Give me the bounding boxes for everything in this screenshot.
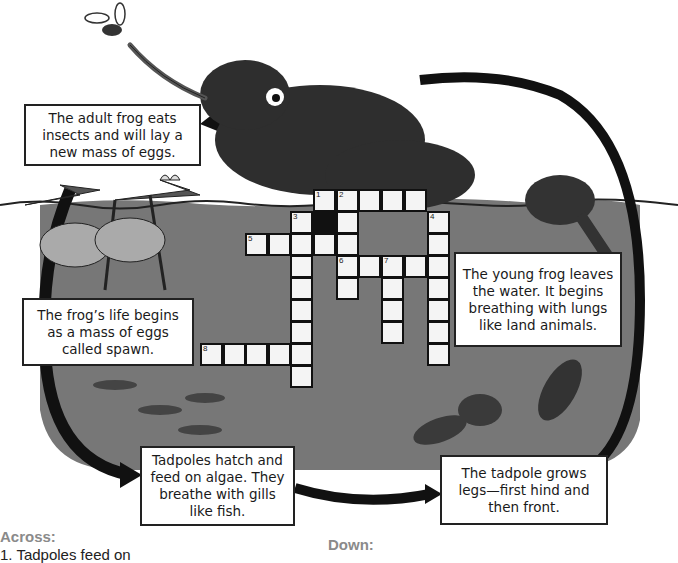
crossword-cell[interactable]: [358, 255, 381, 278]
across-clue-1: 1. Tadpoles feed on: [0, 546, 131, 563]
crossword-cell[interactable]: [404, 255, 427, 278]
crossword-cell[interactable]: [427, 277, 450, 300]
crossword-cell[interactable]: [290, 299, 313, 322]
caption-adult-frog: The adult frog eats insects and will lay…: [24, 104, 201, 166]
crossword-cell[interactable]: [336, 277, 359, 300]
caption-tadpoles: Tadpoles hatch and feed on algae. They b…: [140, 446, 295, 526]
cycle-arrow-bottom: [295, 488, 430, 500]
fly: [102, 24, 122, 36]
crossword-cell[interactable]: [290, 343, 313, 366]
tadpole: [93, 380, 137, 390]
crossword-cell[interactable]: [268, 343, 291, 366]
crossword-cell[interactable]: [427, 299, 450, 322]
crossword-cell[interactable]: [290, 255, 313, 278]
crossword-cell[interactable]: [245, 343, 268, 366]
crossword-blocked-cell: [313, 211, 336, 234]
across-heading: Across:: [0, 528, 56, 545]
crossword-cell[interactable]: [427, 343, 450, 366]
caption-eggs: The frog’s life begins as a mass of eggs…: [22, 298, 194, 366]
crossword-cell[interactable]: [336, 233, 359, 256]
crossword-cell[interactable]: 7: [381, 255, 404, 278]
crossword-cell[interactable]: [290, 365, 313, 388]
crossword-cell[interactable]: 8: [200, 343, 223, 366]
crossword-cell[interactable]: [427, 255, 450, 278]
crossword-cell[interactable]: [381, 321, 404, 344]
crossword-cell[interactable]: [381, 189, 404, 212]
crossword-cell[interactable]: 4: [427, 211, 450, 234]
crossword-cell[interactable]: 5: [245, 233, 268, 256]
crossword-cell[interactable]: 3: [290, 211, 313, 234]
down-heading: Down:: [328, 536, 374, 553]
crossword-cell[interactable]: [223, 343, 246, 366]
crossword-cell[interactable]: [404, 189, 427, 212]
crossword-cell[interactable]: [381, 299, 404, 322]
crossword-cell[interactable]: 2: [336, 189, 359, 212]
caption-legs: The tadpole grows legs—first hind and th…: [440, 455, 608, 525]
crossword-cell[interactable]: [268, 233, 291, 256]
crossword-cell[interactable]: [290, 321, 313, 344]
crossword-cell[interactable]: [427, 321, 450, 344]
crossword-cell[interactable]: [381, 277, 404, 300]
crossword-cell[interactable]: [290, 277, 313, 300]
crossword-cell[interactable]: 6: [336, 255, 359, 278]
crossword-cell[interactable]: [290, 233, 313, 256]
crossword-cell[interactable]: [427, 233, 450, 256]
crossword-cell[interactable]: [358, 189, 381, 212]
crossword-cell[interactable]: [313, 233, 336, 256]
crossword-cell[interactable]: 1: [313, 189, 336, 212]
crossword-cell[interactable]: [336, 211, 359, 234]
caption-young-frog: The young frog leaves the water. It begi…: [454, 252, 622, 347]
